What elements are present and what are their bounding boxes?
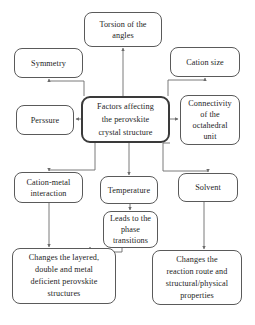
node-cation-metal-interaction[interactable]: Cation-metal interaction <box>14 172 83 203</box>
node-factors-affecting-perovskite-crystal-structure[interactable]: Factors affecting the perovskite crystal… <box>81 96 170 143</box>
node-torsion-of-the-angles[interactable]: Torsion of the angles <box>84 12 162 47</box>
node-label: Perssure <box>17 115 73 126</box>
node-label: Connectivity of the octahedral unit <box>181 98 239 142</box>
node-changes-the-reaction-route-and-structural-physical-properties[interactable]: Changes the reaction route and structura… <box>152 250 242 305</box>
edge-hub-to-cation-size <box>168 78 205 96</box>
node-label: Changes the reaction route and structura… <box>153 254 241 302</box>
edge-hub-to-cation-metal <box>49 143 95 171</box>
node-label: Cation size <box>171 57 239 68</box>
node-leads-to-the-phase-transitions[interactable]: Leads to the phase transitions <box>103 211 158 248</box>
node-label: Symmetry <box>15 58 82 69</box>
node-symmetry[interactable]: Symmetry <box>14 48 83 78</box>
node-solvent[interactable]: Solvent <box>178 173 238 202</box>
node-temperature[interactable]: Temperature <box>100 176 158 204</box>
node-label: Factors affecting the perovskite crystal… <box>83 100 168 139</box>
node-label: Cation-metal interaction <box>15 177 82 199</box>
node-cation-size[interactable]: Cation size <box>170 47 240 77</box>
node-label: Leads to the phase transitions <box>104 213 157 246</box>
node-pressure[interactable]: Perssure <box>16 105 74 135</box>
node-changes-the-layered-double-metal-deficient-perovskite-structures[interactable]: Changes the layered, double and metal de… <box>12 248 116 304</box>
diagram-canvas: Torsion of the angles Symmetry Cation si… <box>0 0 255 325</box>
node-label: Changes the layered, double and metal de… <box>13 252 115 300</box>
node-label: Solvent <box>179 182 237 193</box>
node-label: Torsion of the angles <box>85 19 161 41</box>
node-label: Temperature <box>101 185 157 196</box>
edge-hub-to-solvent <box>163 143 208 172</box>
edge-hub-to-symmetry <box>49 79 84 96</box>
node-connectivity-of-the-octahedral-unit[interactable]: Connectivity of the octahedral unit <box>180 95 240 145</box>
